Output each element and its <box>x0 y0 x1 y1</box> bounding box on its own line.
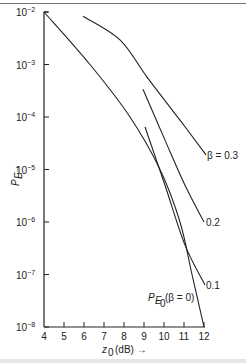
y-tick-label: 10−6 <box>16 216 35 228</box>
x-tick-label: 10 <box>158 331 170 342</box>
curve-00 <box>44 12 204 327</box>
svg-text:0: 0 <box>108 347 114 358</box>
curve-label-beta-0.1: 0.1 <box>206 280 220 291</box>
x-tick-label: 12 <box>198 331 210 342</box>
svg-text:z: z <box>101 344 107 355</box>
x-tick-label: 9 <box>141 331 147 342</box>
svg-text:P: P <box>148 292 155 303</box>
y-tick-label: 10−7 <box>16 269 35 281</box>
curve-label-beta-0.3: β = 0.3 <box>207 150 238 161</box>
svg-text:→: → <box>10 164 21 174</box>
svg-text:(β = 0): (β = 0) <box>165 292 194 303</box>
x-tick-label: 5 <box>61 331 67 342</box>
x-tick-label: 7 <box>101 331 107 342</box>
x-tick-label: 4 <box>41 331 47 342</box>
y-tick-label: 10−3 <box>16 59 35 71</box>
y-tick-label: 10−4 <box>16 111 35 123</box>
x-ticks: 456789101112 <box>41 322 210 342</box>
curve-0.3 <box>83 16 206 155</box>
axes <box>44 12 205 327</box>
y-tick-label: 10−8 <box>16 321 35 333</box>
x-axis-title: z 0 (dB) → <box>101 344 147 358</box>
curve-label-beta-0: P E 0 (β = 0) <box>148 292 194 309</box>
curve-label-beta-0.2: 0.2 <box>206 217 220 228</box>
y-tick-label: 10−2 <box>16 6 35 18</box>
curves <box>44 12 206 327</box>
svg-text:P: P <box>10 179 21 186</box>
svg-text:(dB) →: (dB) → <box>115 344 147 355</box>
chart: 10−210−310−410−510−610−710−8 45678910111… <box>0 0 246 363</box>
x-tick-label: 8 <box>121 331 127 342</box>
x-tick-label: 6 <box>81 331 87 342</box>
x-tick-label: 11 <box>179 331 190 342</box>
